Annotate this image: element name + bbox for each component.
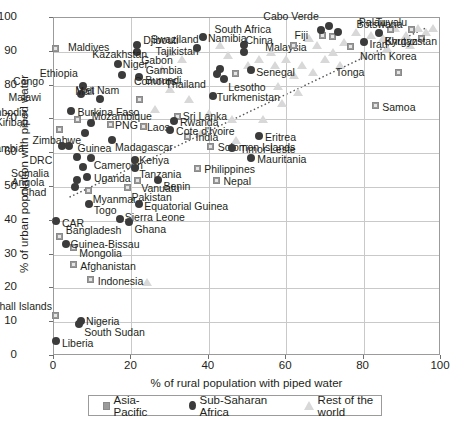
point-label: Marshall Islands (0, 301, 52, 312)
y-axis-tick-label: 60 (0, 146, 17, 158)
y-axis-tickmark (49, 287, 53, 288)
y-axis-tick-label: 90 (0, 45, 17, 57)
point-label: Cameroon (94, 160, 143, 171)
point-label: Senegal (256, 67, 295, 78)
point-label: South Africa (214, 24, 271, 35)
gridline-horizontal (54, 221, 439, 222)
legend-item-rest-of-the-world[interactable]: Rest of the world (304, 394, 381, 418)
gridline-vertical (209, 18, 210, 354)
point-label: Mozambique (92, 111, 152, 122)
point-label: DRC (29, 155, 52, 166)
point-label: Kazakhstan (92, 49, 147, 60)
point-label: PNG (115, 120, 138, 131)
point-label: Guinea-Bissau (71, 239, 140, 250)
point-label: Nigeria (86, 316, 119, 327)
y-axis-tick-label: 30 (0, 248, 17, 260)
point-label: Turkmenistan (217, 92, 280, 103)
point-label: Kyrgyzstan (385, 36, 437, 47)
y-axis-tick-label: 70 (0, 112, 17, 124)
x-axis-tick-label: 0 (33, 360, 73, 372)
y-axis-tickmark (49, 220, 53, 221)
y-axis-tick-label: 100 (0, 11, 17, 23)
legend-item-sub-saharan-africa[interactable]: Sub-Saharan Africa (189, 394, 276, 418)
point-label: Togo (94, 205, 117, 216)
point-label: Mali (75, 86, 94, 97)
point-label: Uganda (94, 173, 131, 184)
legend-label: Rest of the world (318, 394, 381, 418)
y-axis-label: % of urban population with piped water (18, 54, 30, 294)
point-label: Mauritania (257, 154, 306, 165)
y-axis-tick-label: 10 (0, 315, 17, 327)
point-label: Timor-Leste (240, 144, 296, 155)
y-axis-tickmark (49, 152, 53, 153)
point-label: Zimbabwe (33, 135, 81, 146)
y-axis-tick-label: 20 (0, 281, 17, 293)
point-label: South Sudan (84, 327, 145, 338)
point-label: Philippines (204, 164, 255, 175)
point-label: Eritrea (265, 132, 296, 143)
y-axis-tick-label: 0 (0, 349, 17, 361)
point-label: Madagascar (115, 142, 173, 153)
point-label: Tajikistan (155, 46, 198, 57)
x-axis-tick-label: 20 (110, 360, 150, 372)
point-label: Laos (147, 122, 170, 133)
point-label: Comoros (134, 76, 177, 87)
x-axis-tick-label: 40 (188, 360, 228, 372)
point-label: Afghanistan (80, 261, 135, 272)
point-label: Guinea (77, 143, 111, 154)
point-label: Tanzania (139, 169, 181, 180)
legend-item-asia-pacific[interactable]: Asia-Pacific (103, 394, 159, 418)
point-label: Nepal (224, 176, 251, 187)
y-axis-tick-label: 40 (0, 214, 17, 226)
point-label: CAR (62, 218, 84, 229)
x-axis-tick-label: 80 (343, 360, 383, 372)
triangle-icon (304, 401, 314, 410)
point-label: Fiji (295, 30, 308, 41)
point-label: Cote d'Ivoire (176, 126, 235, 137)
legend-label: Sub-Saharan Africa (200, 394, 276, 418)
x-axis-tick-label: 60 (265, 360, 305, 372)
y-axis-tickmark (49, 118, 53, 119)
point-label: Ghana (134, 224, 166, 235)
y-axis-tickmark (49, 85, 53, 86)
point-label: Liberia (62, 338, 94, 349)
y-axis-tick-label: 50 (0, 180, 17, 192)
scatter-chart: MaldivesViet NamKiribatiCambodiaPNGLaosS… (0, 0, 468, 430)
point-label: Tonga (336, 67, 365, 78)
legend-label: Asia-Pacific (114, 394, 159, 418)
y-axis-tickmark (49, 186, 53, 187)
gridline-horizontal (54, 288, 439, 289)
point-label: Kenya (139, 155, 169, 166)
point-label: Samoa (382, 102, 415, 113)
chart-legend: Asia-PacificSub-Saharan AfricaRest of th… (88, 395, 382, 416)
x-axis-label: % of rural population with piped water (53, 377, 440, 389)
point-label: Swaziland (151, 34, 199, 45)
plot-area: MaldivesViet NamKiribatiCambodiaPNGLaosS… (53, 17, 440, 355)
point-label: Botswana (356, 19, 402, 30)
point-label: Ethiopia (40, 68, 78, 79)
point-label: Benin (163, 181, 190, 192)
y-axis-tickmark (49, 51, 53, 52)
circle-icon (189, 401, 196, 410)
y-axis-tickmark (49, 254, 53, 255)
x-axis-tick-label: 100 (420, 360, 460, 372)
y-axis-tickmark (49, 321, 53, 322)
point-label: China (246, 35, 273, 46)
y-axis-tick-label: 80 (0, 79, 17, 91)
point-label: North Korea (360, 51, 417, 62)
point-label: Cabo Verde (263, 11, 318, 22)
y-axis-tickmark (49, 17, 53, 18)
square-icon (103, 402, 110, 410)
point-label: Sierra Leone (125, 212, 185, 223)
point-label: Indonesia (98, 276, 144, 287)
